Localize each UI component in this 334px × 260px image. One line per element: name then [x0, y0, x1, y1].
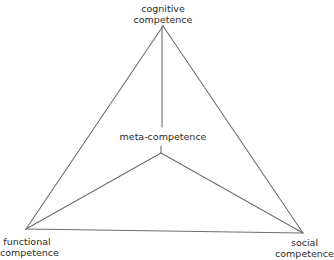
meta-competence-text: meta-competence [113, 131, 213, 142]
meta-competence-label: meta-competence [113, 131, 213, 142]
functional-label-line-2: competence [0, 247, 54, 258]
cognitive-competence-label: cognitive competence [123, 3, 203, 25]
functional-competence-label: functional competence [0, 236, 54, 258]
edge-left-right [26, 229, 303, 233]
functional-label-line-1: functional [0, 236, 54, 247]
spoke-center-left [26, 153, 161, 229]
social-label-line-1: social [275, 237, 334, 248]
social-label-line-2: competence [275, 248, 334, 259]
cognitive-label-line-1: cognitive [123, 3, 203, 14]
competence-triangle-diagram: cognitive competence functional competen… [0, 0, 334, 260]
social-competence-label: social competence [275, 237, 334, 259]
spoke-center-right [161, 153, 303, 233]
edge-top-left [26, 26, 163, 229]
edge-top-right [163, 26, 303, 233]
cognitive-label-line-2: competence [123, 14, 203, 25]
diagram-lines [0, 0, 334, 260]
